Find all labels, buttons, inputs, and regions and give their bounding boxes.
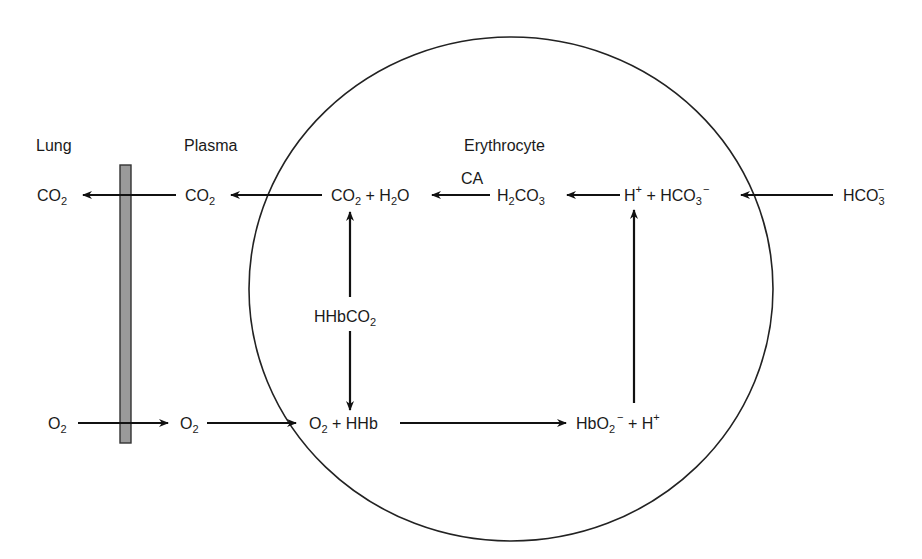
node-rbc-co2-h2o: CO2 + H2O — [331, 187, 410, 207]
node-lung-o2: O2 — [48, 415, 67, 435]
node-hbo2-h: HbO2− + H+ — [576, 411, 660, 435]
region-label-plasma: Plasma — [184, 137, 237, 154]
node-hhbco2: HHbCO2 — [314, 308, 376, 328]
node-plasma-o2: O2 — [180, 415, 199, 435]
enzyme-label-carbonic-anhydrase: CA — [461, 170, 484, 187]
node-plasma-hco3: HCO3− — [843, 183, 885, 207]
region-label-lung: Lung — [36, 137, 72, 154]
node-plasma-co2: CO2 — [185, 187, 215, 207]
node-o2-hhb: O2 + HHb — [309, 415, 378, 435]
erythrocyte-cell-outline — [249, 37, 773, 541]
node-h2co3: H2CO3 — [497, 187, 545, 207]
node-lung-co2: CO2 — [37, 187, 67, 207]
node-h-hco3: H+ + HCO3− — [624, 183, 709, 207]
alveolar-membrane — [120, 165, 131, 443]
co2-o2-exchange-diagram: Lung Plasma Erythrocyte CO2 CO2 CO2 + H2… — [0, 0, 922, 559]
region-label-erythrocyte: Erythrocyte — [464, 137, 545, 154]
